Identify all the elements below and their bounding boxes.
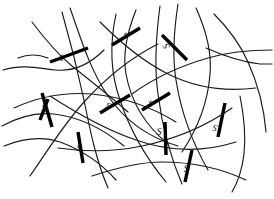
polymer-network-figure: SSSSSSSSSSS [0,0,274,199]
sulfur-crosslink-label: S [42,104,47,114]
polymer-network-canvas: SSSSSSSSSSS [0,0,274,199]
sulfur-crosslink-label: S [157,127,162,137]
sulfur-crosslink-label: S [184,164,189,174]
sulfur-crosslink-bond [165,122,166,155]
